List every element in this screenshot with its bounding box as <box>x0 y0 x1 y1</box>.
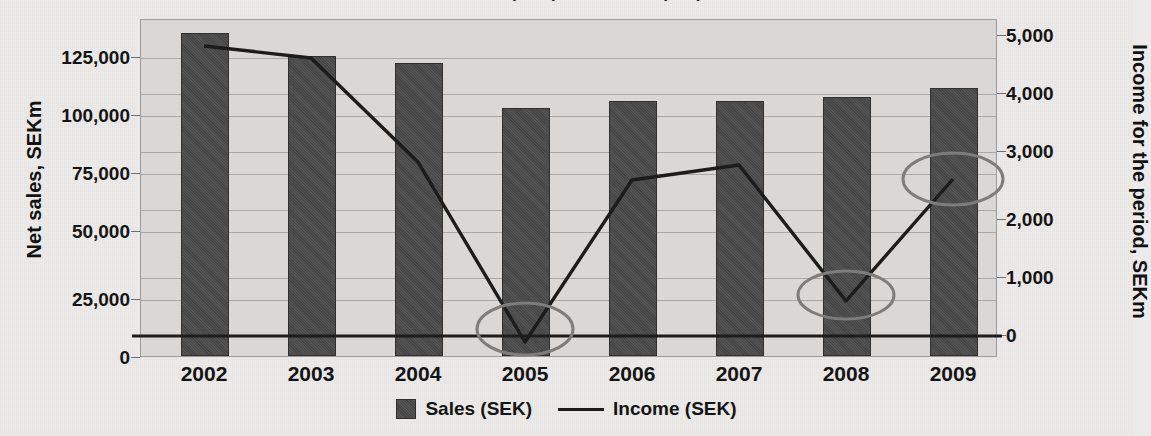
y-axis-right-tick-1000: 1,000 <box>1006 267 1096 289</box>
y-axis-right-tickmark <box>997 35 1006 36</box>
y-axis-left-tick-125000: 125,000 <box>30 47 130 69</box>
x-axis-tick-2005: 2005 <box>470 362 580 386</box>
x-axis-tick-2003: 2003 <box>256 362 366 386</box>
y-axis-right-tickmark <box>997 277 1006 278</box>
chart-title-cropped: Net sales (bars) and income (line) <box>0 0 1133 14</box>
y-axis-right-tickmark <box>997 93 1006 94</box>
legend-item-sales: Sales (SEK) <box>396 398 532 420</box>
y-axis-left-tick-100000: 100,000 <box>30 105 130 127</box>
legend-item-income: Income (SEK) <box>558 398 737 420</box>
x-axis-tick-2004: 2004 <box>363 362 473 386</box>
legend-label-sales: Sales (SEK) <box>425 398 532 420</box>
y-axis-left-tick-0: 0 <box>30 347 130 369</box>
x-axis-tick-2006: 2006 <box>577 362 687 386</box>
y-axis-right-tickmark <box>997 219 1006 220</box>
y-axis-left-tickmark <box>131 57 140 58</box>
chart-title-text: Net sales (bars) and income (line) <box>0 0 1133 3</box>
y-axis-left-tickmark <box>131 115 140 116</box>
y-axis-left-tickmark <box>131 173 140 174</box>
y-axis-right-tickmark <box>997 151 1006 152</box>
x-axis-tick-2008: 2008 <box>791 362 901 386</box>
y-axis-left-tick-25000: 25,000 <box>30 289 130 311</box>
income-line-series <box>204 46 953 342</box>
legend-swatch-square-icon <box>396 399 416 419</box>
y-axis-right-tick-4000: 4,000 <box>1006 83 1096 105</box>
y-axis-right-tick-3000: 3,000 <box>1006 141 1096 163</box>
y-axis-left-tick-50000: 50,000 <box>30 221 130 243</box>
highlight-ellipse-2005 <box>477 303 573 355</box>
y-axis-left-tickmark <box>131 231 140 232</box>
y-axis-left-tickmark <box>131 357 140 358</box>
legend-swatch-line-icon <box>558 408 604 411</box>
y-axis-left-tickmark <box>131 299 140 300</box>
y-axis-left-tick-75000: 75,000 <box>30 163 130 185</box>
y-axis-right-tick-0: 0 <box>1006 325 1096 347</box>
income-line-layer <box>140 19 997 357</box>
x-axis-tick-2009: 2009 <box>898 362 1008 386</box>
y-axis-right-tick-5000: 5,000 <box>1006 25 1096 47</box>
chart-legend: Sales (SEK) Income (SEK) <box>0 398 1133 420</box>
x-axis-tick-2007: 2007 <box>684 362 794 386</box>
y-axis-right-tick-2000: 2,000 <box>1006 209 1096 231</box>
legend-label-income: Income (SEK) <box>613 398 737 420</box>
x-axis-tick-2002: 2002 <box>149 362 259 386</box>
y-axis-right-title: Income for the period, SEKm <box>1128 22 1151 342</box>
highlight-ellipse-2008 <box>798 271 894 319</box>
